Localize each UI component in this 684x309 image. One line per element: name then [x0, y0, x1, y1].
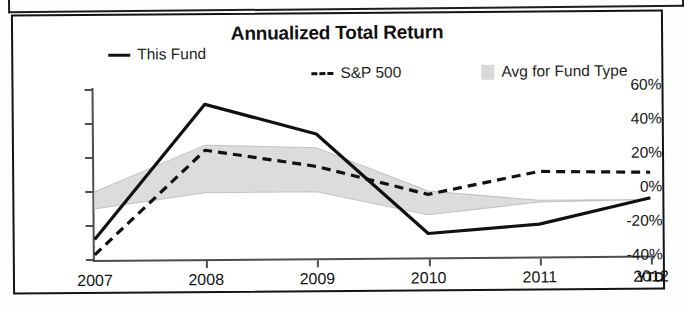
chart-panel: Annualized Total Return This Fund S&P 50…	[11, 9, 665, 294]
plot-area	[13, 11, 667, 296]
plot-stage: Annualized Total Return This Fund S&P 50…	[13, 11, 663, 292]
